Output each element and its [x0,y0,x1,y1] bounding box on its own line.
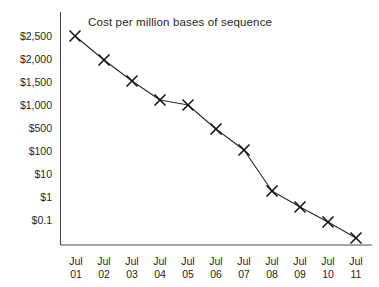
y-tick-label-1000: $1,000 [20,99,52,111]
x-tick-year-5: 06 [210,268,222,280]
x-tick-label-jul-04: Jul 04 [153,255,166,280]
x-tick-month-6: Jul [237,255,250,267]
x-tick-label-jul-03: Jul 03 [125,255,138,280]
x-tick-year-6: 07 [238,268,250,280]
x-tick-label-jul-07: Jul 07 [237,255,250,280]
x-tick-month-5: Jul [209,255,222,267]
x-tick-label-jul-10: Jul 10 [321,255,334,280]
x-tick-month-4: Jul [181,255,194,267]
x-tick-year-9: 10 [322,268,334,280]
x-tick-month-8: Jul [293,255,306,267]
x-tick-month-1: Jul [97,255,110,267]
x-tick-label-jul-08: Jul 08 [265,255,278,280]
x-tick-month-9: Jul [321,255,334,267]
x-tick-year-8: 09 [294,268,306,280]
x-tick-label-jul-02: Jul 02 [97,255,110,280]
x-tick-month-7: Jul [265,255,278,267]
x-tick-label-jul-06: Jul 06 [209,255,222,280]
x-tick-year-1: 02 [98,268,110,280]
y-tick-label-1: $1 [40,191,52,203]
chart-background [0,0,379,287]
y-tick-label-10: $10 [34,168,52,180]
y-tick-label-2000: $2,000 [20,53,52,65]
y-tick-label-1500: $1,500 [20,76,52,88]
x-tick-label-jul-01: Jul 01 [69,255,82,280]
x-tick-month-3: Jul [153,255,166,267]
chart-container: Cost per million bases of sequence $2,50… [0,0,379,287]
x-tick-year-3: 04 [154,268,166,280]
y-tick-label-100: $100 [29,145,53,157]
y-tick-label-2500: $2,500 [20,30,52,42]
chart-title: Cost per million bases of sequence [88,16,272,28]
x-tick-month-10: Jul [349,255,362,267]
x-tick-label-jul-05: Jul 05 [181,255,194,280]
x-tick-month-2: Jul [125,255,138,267]
x-tick-year-4: 05 [182,268,194,280]
cost-per-million-bases-line-chart: Cost per million bases of sequence $2,50… [0,0,379,287]
x-tick-year-0: 01 [70,268,82,280]
x-tick-year-2: 03 [126,268,138,280]
x-tick-label-jul-09: Jul 09 [293,255,306,280]
x-tick-year-7: 08 [266,268,278,280]
y-tick-label-0-1: $0.1 [32,214,53,226]
x-tick-label-jul-11: Jul 11 [349,255,362,280]
x-tick-year-10: 11 [351,268,362,280]
x-tick-month-0: Jul [69,255,82,267]
y-tick-label-500: $500 [29,122,53,134]
